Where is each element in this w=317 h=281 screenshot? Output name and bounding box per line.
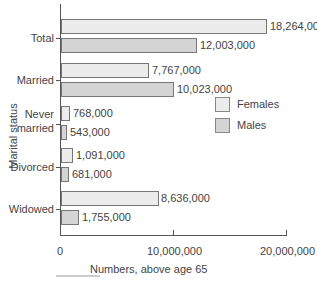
x-tick bbox=[173, 230, 174, 235]
value-label: 1,091,000 bbox=[76, 148, 125, 163]
x-tick-label: 0 bbox=[57, 245, 63, 257]
bar-males-total bbox=[61, 38, 197, 53]
legend-swatch-females bbox=[215, 97, 230, 112]
bar-males-never-married bbox=[61, 125, 67, 140]
y-tick bbox=[56, 167, 60, 168]
value-label: 18,264,000 bbox=[270, 19, 317, 34]
legend-label-males: Males bbox=[237, 118, 266, 133]
bar-males-married bbox=[61, 82, 174, 97]
decorative-underline bbox=[56, 275, 100, 277]
bar-females-divorced bbox=[61, 148, 73, 163]
value-label: 7,767,000 bbox=[152, 63, 201, 78]
value-label: 10,023,000 bbox=[177, 82, 232, 97]
x-axis bbox=[60, 235, 287, 236]
value-label: 8,636,000 bbox=[161, 191, 210, 206]
bar-males-divorced bbox=[61, 167, 69, 182]
bar-males-widowed bbox=[61, 210, 79, 225]
y-tick bbox=[56, 38, 60, 39]
category-label: Total bbox=[0, 32, 54, 45]
x-tick bbox=[286, 230, 287, 235]
x-tick-label: 10,000,000 bbox=[147, 245, 202, 257]
value-label: 768,000 bbox=[73, 106, 113, 121]
category-label: Married bbox=[0, 74, 54, 87]
bar-females-never-married bbox=[61, 106, 70, 121]
y-axis-title: Marital status bbox=[7, 101, 19, 171]
value-label: 12,003,000 bbox=[200, 38, 255, 53]
legend-label-females: Females bbox=[237, 97, 279, 112]
value-label: 681,000 bbox=[72, 167, 112, 182]
y-tick bbox=[56, 124, 60, 125]
x-axis-title: Numbers, above age 65 bbox=[90, 263, 207, 275]
category-label: Widowed bbox=[0, 203, 54, 216]
legend-swatch-males bbox=[215, 118, 230, 133]
y-tick bbox=[56, 209, 60, 210]
bar-females-widowed bbox=[61, 191, 159, 206]
bar-females-married bbox=[61, 63, 149, 78]
value-label: 1,755,000 bbox=[82, 210, 131, 225]
x-tick-label: 20,000,000 bbox=[260, 245, 315, 257]
y-tick bbox=[56, 80, 60, 81]
value-label: 543,000 bbox=[70, 125, 110, 140]
bar-females-total bbox=[61, 19, 267, 34]
